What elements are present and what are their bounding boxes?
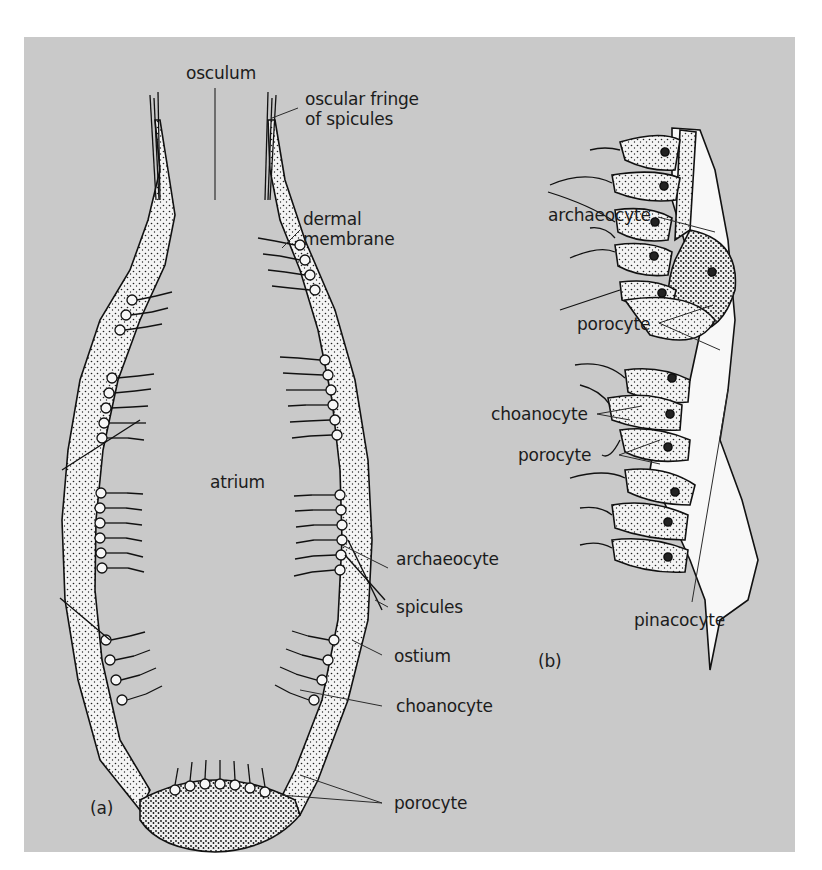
label-ostium: ostium — [394, 646, 451, 666]
label-dermal-membrane: dermal membrane — [303, 209, 393, 249]
sponge-anatomy-illustration — [0, 0, 822, 870]
wall-spicules — [60, 420, 385, 640]
label-choanocyte-b: choanocyte — [491, 404, 588, 424]
label-choanocyte-a: choanocyte — [396, 696, 493, 716]
label-pinacocyte: pinacocyte — [634, 610, 725, 630]
panel-a-label: (a) — [90, 798, 113, 818]
label-porocyte-a: porocyte — [394, 793, 467, 813]
label-porocyte-b-upper: porocyte — [577, 314, 650, 334]
label-osculum: osculum — [186, 63, 256, 83]
label-porocyte-b-lower: porocyte — [518, 445, 591, 465]
label-archaeocyte-a: archaeocyte — [396, 549, 499, 569]
label-archaeocyte-b: archaeocyte — [548, 205, 651, 225]
label-oscular-fringe: oscular fringe of spicules — [305, 89, 435, 129]
label-atrium: atrium — [210, 472, 265, 492]
panel-b-label: (b) — [538, 651, 561, 671]
label-spicules: spicules — [396, 597, 463, 617]
